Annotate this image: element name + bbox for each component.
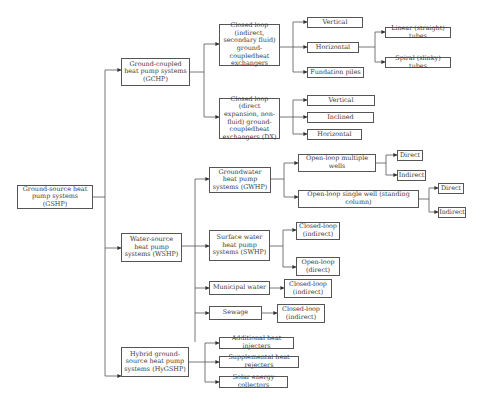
node-closed-loop-indirect: Closed loop (indirect, secondary fluid) … [219, 24, 280, 66]
node-swhp-open-loop: Open-loop (direct) [296, 257, 340, 276]
node-gshp: Ground-source heat pump systems (GSHP) [17, 185, 93, 209]
node-multiple-direct: Direct [397, 150, 423, 161]
node-gwhp: Groundwater heat pump systems (GWHP) [209, 167, 271, 193]
node-multiple-indirect: Indirect [397, 170, 426, 181]
node-indirect-fundation-piles: Fundation piles [307, 67, 364, 78]
node-swhp: Surface water heat pump systems (SWHP) [209, 230, 270, 261]
node-open-loop-single-well: Open-loop single well (standing column) [298, 190, 419, 208]
node-swhp-closed-loop: Closed-loop (indirect) [296, 222, 340, 240]
node-linear-tubes: Linear (straight) tubes [385, 27, 451, 38]
node-indirect-vertical: Vertical [307, 17, 363, 28]
node-sewage: Sewage [209, 306, 262, 320]
node-spiral-tubes: Spiral (slinky) tubes [385, 57, 451, 68]
node-wshp: Water-source heat pump systems (WSHP) [121, 233, 182, 262]
node-solar-energy-collectors: Solar energy collectors [219, 376, 288, 388]
node-single-direct: Direct [438, 183, 464, 194]
node-single-indirect: Indirect [438, 207, 466, 218]
node-dx-vertical: Vertical [307, 95, 375, 106]
node-closed-loop-dx: Closed loop (direct expansion, non-fluid… [219, 98, 280, 139]
node-municipal-closed-loop: Closed-loop (indirect) [284, 279, 332, 298]
node-hygshp: Hybrid ground-source heat pump systems (… [121, 347, 189, 377]
node-gchp: Ground-coupled heat pump systems (GCHP) [121, 58, 190, 86]
node-sewage-closed-loop: Closed-loop (indirect) [277, 304, 325, 323]
node-dx-inclined: Inclined [307, 112, 374, 123]
node-indirect-horizontal: Horizontal [307, 42, 359, 53]
node-municipal-water: Municipal water [209, 281, 270, 295]
node-open-loop-multiple-wells: Open-loop multiple wells [298, 154, 376, 172]
gshp-classification-diagram: Ground-source heat pump systems (GSHP) G… [0, 0, 482, 409]
node-dx-horizontal: Horizontal [307, 129, 362, 140]
node-additional-heat-injecters: Additional heat injecters [219, 337, 294, 349]
node-supplemental-heat-rejecters: Supplemental heat rejecters [219, 356, 299, 368]
